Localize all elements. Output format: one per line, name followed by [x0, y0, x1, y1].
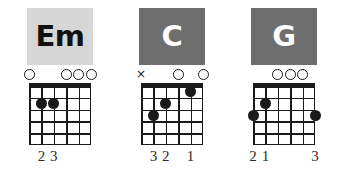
open-string-icon — [73, 69, 84, 80]
chord-name-plate: Em — [27, 8, 93, 65]
chord-name-label: G — [272, 22, 295, 51]
fret-grid — [253, 86, 315, 145]
finger-number: 3 — [309, 147, 321, 165]
open-string-icon — [61, 69, 72, 80]
finger-dot — [260, 98, 271, 109]
open-string-icon — [297, 69, 308, 80]
string-line — [278, 86, 280, 145]
chord-name-label: Em — [35, 22, 84, 51]
fret-line — [29, 86, 91, 88]
fret-line — [253, 86, 315, 88]
chord-name-plate: G — [251, 8, 317, 65]
finger-dot — [310, 110, 321, 121]
open-string-icon — [272, 69, 283, 80]
string-line — [265, 86, 267, 145]
finger-number: 3 — [48, 147, 60, 165]
string-line — [290, 86, 292, 145]
fretboard-diagram — [253, 83, 315, 145]
chord-c: C×321 — [136, 8, 208, 169]
string-line — [66, 86, 68, 145]
string-line — [141, 86, 143, 145]
finger-dot — [36, 98, 47, 109]
muted-string-icon: × — [136, 69, 147, 80]
string-markers-row: × — [139, 69, 205, 82]
finger-number: 3 — [147, 147, 159, 165]
fret-grid — [29, 86, 91, 145]
fret-line — [141, 121, 203, 123]
finger-number: 1 — [259, 147, 271, 165]
string-line — [303, 86, 305, 145]
fret-line — [141, 144, 203, 146]
finger-dot — [248, 110, 259, 121]
chord-name-plate: C — [139, 8, 205, 65]
finger-dot — [148, 110, 159, 121]
finger-number: 2 — [160, 147, 172, 165]
fret-line — [253, 110, 315, 112]
finger-number: 1 — [185, 147, 197, 165]
finger-number: 2 — [247, 147, 259, 165]
fretboard-diagram — [141, 83, 203, 145]
open-string-icon — [173, 69, 184, 80]
open-string-icon — [285, 69, 296, 80]
chord-em: Em23 — [24, 8, 96, 169]
string-line — [79, 86, 81, 145]
string-line — [54, 86, 56, 145]
finger-numbers-row: 23 — [27, 147, 93, 169]
open-string-icon — [198, 69, 209, 80]
fret-line — [253, 133, 315, 135]
fret-line — [29, 133, 91, 135]
string-line — [41, 86, 43, 145]
finger-number: 2 — [35, 147, 47, 165]
fret-line — [29, 121, 91, 123]
open-string-icon — [24, 69, 35, 80]
fret-line — [141, 98, 203, 100]
fret-line — [253, 144, 315, 146]
string-markers-row — [251, 69, 317, 82]
finger-numbers-row: 321 — [139, 147, 205, 169]
string-line — [29, 86, 31, 145]
chord-name-label: C — [162, 22, 183, 51]
chord-chart: Em23C×321G213 — [0, 0, 344, 179]
fret-line — [29, 144, 91, 146]
fret-line — [29, 110, 91, 112]
string-line — [178, 86, 180, 145]
open-string-icon — [86, 69, 97, 80]
string-line — [90, 86, 92, 145]
chord-g: G213 — [248, 8, 320, 169]
fret-line — [141, 133, 203, 135]
string-line — [166, 86, 168, 145]
string-markers-row — [27, 69, 93, 82]
fret-line — [253, 121, 315, 123]
string-line — [202, 86, 204, 145]
fretboard-diagram — [29, 83, 91, 145]
finger-numbers-row: 213 — [251, 147, 317, 169]
